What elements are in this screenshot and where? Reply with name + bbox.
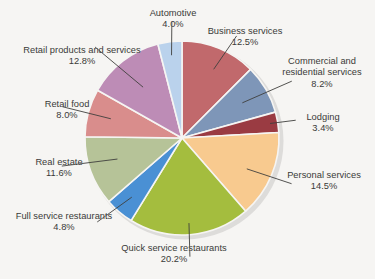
pie-label-lodging-value: 3.4% [292,123,354,134]
pie-label-personal-services: Personal services 14.5% [276,170,372,193]
pie-label-business-services-value: 12.5% [196,37,294,48]
pie-label-full-service-restaurants-name: Full service restaurants [10,211,118,222]
pie-label-business-services: Business services 12.5% [196,26,294,49]
pie-label-commercial-and-residential-services: Commercial and residential services 8.2% [272,56,372,90]
pie-label-lodging-name: Lodging [292,112,354,123]
pie-label-retail-products-and-services-value: 12.8% [16,56,148,67]
pie-label-real-estate-name: Real estate [18,157,100,168]
pie-label-retail-food: Retail food 8.0% [28,99,106,122]
pie-label-commercial-and-residential-services-name-line2: residential services [272,67,372,78]
pie-label-commercial-and-residential-services-name-line1: Commercial and [272,56,372,67]
pie-label-retail-products-and-services: Retail products and services 12.8% [16,45,148,68]
pie-chart: Automotive 4.0% Business services 12.5% … [0,0,375,279]
pie-label-quick-service-restaurants-value: 20.2% [108,254,240,265]
pie-label-real-estate-value: 11.6% [18,168,100,179]
pie-label-business-services-name: Business services [196,26,294,37]
pie-label-personal-services-value: 14.5% [276,181,372,192]
pie-slices-group [85,41,279,235]
pie-chart-canvas [0,0,375,279]
pie-label-quick-service-restaurants-name: Quick service restaurants [108,243,240,254]
pie-label-full-service-restaurants-value: 4.8% [10,222,118,233]
pie-label-lodging: Lodging 3.4% [292,112,354,135]
pie-label-retail-products-and-services-name: Retail products and services [16,45,148,56]
pie-label-real-estate: Real estate 11.6% [18,157,100,180]
pie-label-retail-food-value: 8.0% [28,110,106,121]
pie-label-retail-food-name: Retail food [28,99,106,110]
pie-label-personal-services-name: Personal services [276,170,372,181]
pie-label-automotive-name: Automotive [128,8,218,19]
pie-label-commercial-and-residential-services-value: 8.2% [272,79,372,90]
pie-label-quick-service-restaurants: Quick service restaurants 20.2% [108,243,240,266]
pie-label-full-service-restaurants: Full service restaurants 4.8% [10,211,118,234]
